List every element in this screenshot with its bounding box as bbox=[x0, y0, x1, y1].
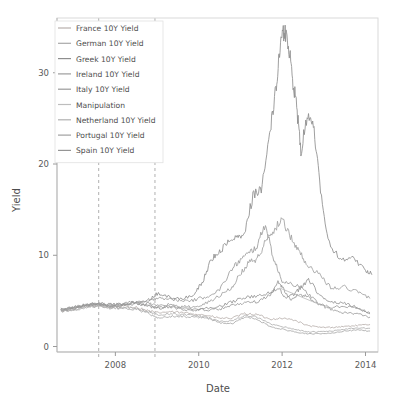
y-tick-label: 0 bbox=[44, 342, 49, 352]
yield-chart-figure: 20082010201220140102030 France 10Y Yield… bbox=[0, 0, 394, 401]
y-tick-label: 20 bbox=[38, 159, 49, 169]
legend-item-label: Greek 10Y Yield bbox=[76, 55, 136, 64]
series-line-ireland-10y-yield bbox=[61, 226, 369, 318]
legend-item-label: Italy 10Y Yield bbox=[76, 85, 130, 94]
legend-item-label: Portugal 10Y Yield bbox=[76, 131, 145, 140]
series-line-portugal-10y-yield bbox=[61, 218, 369, 311]
legend-item-label: German 10Y Yield bbox=[76, 39, 144, 48]
legend-item-label: Manipulation bbox=[76, 101, 125, 110]
x-tick-label: 2010 bbox=[188, 360, 210, 370]
chart-canvas: 20082010201220140102030 France 10Y Yield… bbox=[0, 0, 394, 401]
x-axis-title: Date bbox=[206, 383, 230, 394]
legend-item-label: Netherland 10Y Yield bbox=[76, 116, 156, 125]
x-tick-label: 2012 bbox=[271, 360, 293, 370]
x-tick-label: 2008 bbox=[105, 360, 127, 370]
chart-legend: France 10Y YieldGerman 10Y YieldGreek 10… bbox=[55, 21, 163, 163]
y-axis-title: Yield bbox=[11, 188, 22, 213]
legend-item-label: Ireland 10Y Yield bbox=[76, 70, 140, 79]
y-tick-label: 10 bbox=[38, 250, 49, 260]
series-line-manipulation bbox=[280, 288, 320, 304]
series-line-netherland-10y-yield bbox=[61, 305, 369, 332]
legend-item-label: Spain 10Y Yield bbox=[76, 146, 135, 155]
x-tick-label: 2014 bbox=[355, 360, 377, 370]
y-tick-label: 30 bbox=[38, 68, 49, 78]
legend-item-label: France 10Y Yield bbox=[76, 24, 139, 33]
